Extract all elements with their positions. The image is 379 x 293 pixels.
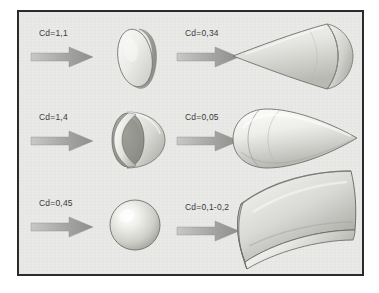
flow-arrow-cup [31, 129, 95, 153]
cell-cup: Cd=1,4 [19, 96, 179, 184]
shape-sphere [107, 196, 165, 254]
shape-hollow-hemisphere-cup [105, 108, 171, 172]
flow-arrow-disc [31, 45, 95, 69]
shape-teardrop-streamlined-body [229, 102, 364, 176]
shape-cone [231, 16, 361, 96]
cell-airfoil: Cd=0,1-0,2 [169, 182, 364, 274]
shape-curved-airfoil-panel [223, 170, 363, 274]
cd-label-cup: Cd=1,4 [39, 112, 68, 122]
cd-label-disc: Cd=1,1 [39, 28, 68, 38]
cell-disc: Cd=1,1 [19, 12, 179, 100]
figure-plate-frame: Cd=1,1 [17, 10, 364, 276]
flow-arrow-sphere [31, 215, 95, 239]
cell-sphere: Cd=0,45 [19, 182, 179, 274]
cd-label-sphere: Cd=0,45 [39, 198, 73, 208]
drag-coefficient-figure: Cd=1,1 [0, 0, 379, 293]
cd-label-cone: Cd=0,34 [185, 28, 219, 38]
cell-cone: Cd=0,34 [169, 12, 364, 100]
shape-flat-disc [107, 20, 167, 94]
cd-label-teardrop: Cd=0,05 [185, 112, 219, 122]
